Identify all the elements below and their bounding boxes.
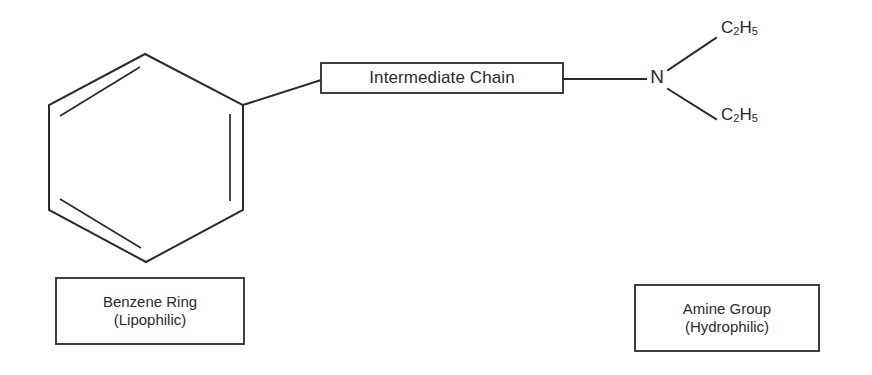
ethyl-top-h: H: [739, 18, 751, 37]
bond-ring-to-chain: [243, 80, 321, 105]
amine-group-caption: Amine Group (Hydrophilic): [635, 285, 819, 351]
double-bond-upper-left: [60, 67, 140, 116]
bond-nitrogen-to-ethyl-top: [668, 38, 716, 70]
amine-caption-line-2: (Hydrophilic): [685, 318, 769, 336]
molecular-structure-diagram: Intermediate Chain N C2H5 C2H5 Benzene R…: [0, 0, 872, 375]
nitrogen-atom-label: N: [646, 66, 668, 88]
benzene-caption-line-1: Benzene Ring: [103, 293, 197, 311]
benzene-ring: [49, 54, 243, 262]
ethyl-bottom-c: C: [721, 105, 733, 124]
benzene-caption-line-2: (Lipophilic): [114, 311, 187, 329]
ethyl-top-c: C: [721, 18, 733, 37]
ethyl-group-bottom-label: C2H5: [721, 105, 758, 125]
benzene-ring-caption: Benzene Ring (Lipophilic): [56, 278, 244, 344]
bond-nitrogen-to-ethyl-bottom: [668, 89, 716, 119]
amine-caption-line-1: Amine Group: [683, 300, 771, 318]
ethyl-top-h-count: 5: [752, 25, 758, 37]
ethyl-bottom-h: H: [739, 105, 751, 124]
ethyl-bottom-h-count: 5: [752, 112, 758, 124]
ethyl-group-top-label: C2H5: [721, 18, 758, 38]
benzene-ring-outline: [49, 54, 243, 262]
intermediate-chain-label: Intermediate Chain: [321, 63, 563, 93]
